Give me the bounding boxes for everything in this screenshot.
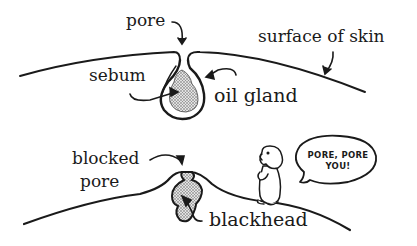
label-blackhead: blackhead (209, 210, 308, 229)
label-blocked-pore: pore (80, 173, 119, 190)
speech-line-1: PORE, PORE (300, 150, 376, 161)
cartoon-character (258, 146, 283, 205)
surface-arrow (323, 52, 333, 74)
label-surface-of-skin: surface of skin (258, 28, 385, 45)
speech-bubble-text: PORE, PORE YOU! (300, 150, 376, 173)
speech-line-2: YOU! (300, 161, 376, 172)
label-blocked: blocked (72, 150, 139, 167)
blocked-pore-arrow (150, 155, 184, 164)
blackhead (172, 172, 202, 221)
label-sebum: sebum (89, 67, 146, 84)
label-oil-gland: oil gland (214, 86, 298, 105)
oil-gland-arrow (206, 69, 236, 79)
label-pore: pore (126, 12, 165, 29)
skin-pore-diagram: pore surface of skin sebum oil gland blo… (0, 0, 417, 246)
pore-arrow (172, 22, 186, 44)
